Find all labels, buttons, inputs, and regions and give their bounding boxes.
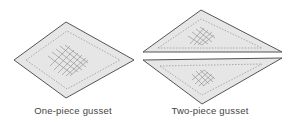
one-piece-gusset-shape [14,22,134,98]
two-piece-gusset-upper-shape [143,10,282,52]
one-piece-gusset-caption: One-piece gusset [34,105,112,116]
two-piece-gusset-lower-shape [143,58,282,104]
two-piece-gusset-caption: Two-piece gusset [171,105,248,116]
